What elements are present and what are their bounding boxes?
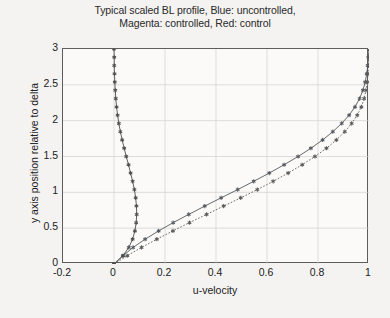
data-marker — [171, 221, 175, 225]
data-marker — [300, 163, 304, 167]
data-marker — [350, 121, 354, 125]
x-tick-label: 1 — [345, 266, 390, 278]
data-marker — [255, 188, 259, 192]
x-axis-tick-labels: -0.200.20.40.60.81 — [62, 266, 368, 282]
data-marker — [140, 245, 144, 249]
data-marker — [361, 88, 365, 92]
data-marker — [219, 196, 223, 200]
figure-canvas: Typical scaled BL profile, Blue: uncontr… — [0, 0, 390, 318]
x-tick-label: 0.8 — [294, 266, 340, 278]
data-marker — [355, 113, 359, 117]
data-marker — [157, 229, 161, 233]
data-marker — [188, 221, 192, 225]
x-tick-label: 0 — [90, 266, 136, 278]
data-marker — [134, 196, 138, 200]
data-marker — [360, 105, 364, 109]
data-marker — [362, 96, 366, 100]
data-marker — [131, 237, 135, 241]
y-axis-label: y axis position relative to delta — [28, 46, 40, 261]
data-marker — [203, 204, 207, 208]
data-marker — [133, 188, 137, 192]
data-marker — [187, 212, 191, 216]
x-axis-label: u-velocity — [62, 284, 368, 296]
data-marker — [114, 96, 118, 100]
data-marker — [120, 138, 124, 142]
x-tick-label: 0.4 — [192, 266, 238, 278]
data-marker — [364, 88, 368, 92]
data-marker — [282, 163, 286, 167]
data-marker — [112, 49, 116, 51]
chart-title-line-2: Magenta: controlled, Red: control — [0, 17, 390, 30]
data-marker — [119, 130, 123, 134]
data-marker — [335, 138, 339, 142]
chart-title-line-1: Typical scaled BL profile, Blue: uncontr… — [0, 4, 390, 17]
x-tick-label: 0.6 — [243, 266, 289, 278]
data-marker — [271, 179, 275, 183]
data-marker — [309, 146, 313, 150]
data-marker — [117, 121, 121, 125]
plot-svg — [63, 49, 369, 264]
data-marker — [135, 204, 139, 208]
data-marker — [267, 171, 271, 175]
data-marker — [122, 146, 126, 150]
data-marker — [367, 49, 369, 51]
data-marker — [112, 63, 116, 67]
data-marker — [116, 113, 120, 117]
data-marker — [115, 105, 119, 109]
plot-area — [62, 48, 368, 263]
data-marker — [133, 229, 137, 233]
data-marker — [127, 163, 131, 167]
data-marker — [112, 55, 116, 59]
data-marker — [155, 237, 159, 241]
data-marker — [113, 80, 117, 84]
data-marker — [131, 179, 135, 183]
data-marker — [129, 171, 133, 175]
data-marker — [236, 188, 240, 192]
data-marker — [286, 171, 290, 175]
data-marker — [143, 237, 147, 241]
data-marker — [325, 146, 329, 150]
data-marker — [134, 221, 138, 225]
data-marker — [239, 196, 243, 200]
gridlines — [63, 49, 369, 264]
data-marker — [222, 204, 226, 208]
data-marker — [135, 212, 139, 216]
data-marker — [125, 254, 129, 258]
x-tick-label: 0.2 — [141, 266, 187, 278]
data-marker — [113, 72, 117, 76]
data-marker — [205, 212, 209, 216]
chart-title: Typical scaled BL profile, Blue: uncontr… — [0, 4, 390, 30]
data-marker — [252, 179, 256, 183]
data-marker — [171, 229, 175, 233]
x-tick-label: -0.2 — [39, 266, 85, 278]
